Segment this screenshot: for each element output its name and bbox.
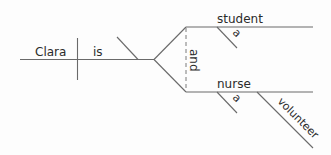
complement-1-article-word: a [230,26,244,40]
conjunction-word: and [187,49,201,72]
complement-2-article-word: a [230,91,244,105]
fork-lower-branch [154,60,186,93]
fork-upper-branch [154,27,186,60]
sentence-diagram: Clara is and student nurse a a volunteer [0,0,331,155]
subject-word: Clara [35,45,66,59]
complement-slant-marker [117,37,138,60]
verb-word: is [93,45,103,59]
complement-2-word: nurse [217,77,251,91]
complement-1-word: student [217,12,263,26]
complement-2-modifier-word: volunteer [275,95,322,142]
